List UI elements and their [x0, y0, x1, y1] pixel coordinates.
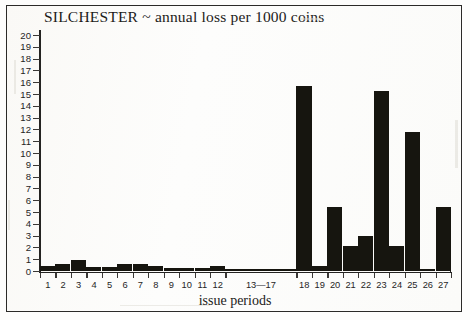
y-axis-tick	[33, 118, 40, 119]
x-axis-tick	[148, 273, 149, 278]
y-axis-tick	[33, 59, 40, 60]
bar	[405, 132, 420, 271]
bar	[164, 268, 179, 272]
x-axis-tick	[312, 273, 313, 278]
x-axis-tick	[55, 273, 56, 278]
bar	[296, 86, 311, 271]
y-axis-label: 4	[0, 219, 31, 229]
x-axis-tick	[210, 273, 211, 278]
x-axis-tick	[195, 273, 196, 278]
y-axis-label: 19	[0, 42, 31, 52]
bar	[148, 266, 163, 271]
x-axis-label: 27	[423, 281, 463, 290]
y-axis-label: 3	[0, 231, 31, 241]
y-axis-label: 1	[0, 255, 31, 265]
y-axis-tick	[33, 82, 40, 83]
x-axis-tick	[374, 273, 375, 278]
bar	[210, 266, 225, 272]
x-axis-tick	[225, 273, 226, 278]
y-axis-label: 12	[0, 125, 31, 135]
y-axis-tick	[33, 141, 40, 142]
bar	[40, 266, 55, 272]
y-axis-tick	[33, 177, 40, 178]
y-axis-label: 8	[0, 172, 31, 182]
y-axis-label: 9	[0, 160, 31, 170]
y-axis-tick	[33, 153, 40, 154]
y-axis-tick	[33, 129, 40, 130]
y-axis-label: 14	[0, 101, 31, 111]
chart-page: SILCHESTER ~ annual loss per 1000 coins …	[0, 0, 470, 320]
x-axis-tick	[327, 273, 328, 278]
y-axis-label: 11	[0, 137, 31, 147]
chart-title: SILCHESTER ~ annual loss per 1000 coins	[44, 8, 325, 26]
y-axis-tick	[33, 247, 40, 248]
x-axis-tick	[405, 273, 406, 278]
y-axis-label: 17	[0, 66, 31, 76]
bar	[179, 268, 194, 272]
y-axis-tick	[33, 94, 40, 95]
x-axis-tick	[133, 273, 134, 278]
y-axis-tick	[33, 35, 40, 36]
x-axis-caption: issue periods	[0, 293, 470, 309]
x-axis-tick	[40, 273, 41, 278]
y-axis-label: 20	[0, 31, 31, 41]
bar	[195, 268, 210, 272]
bar	[436, 207, 451, 272]
y-axis-label: 15	[0, 90, 31, 100]
bar	[55, 264, 70, 271]
x-axis-tick	[296, 273, 297, 278]
x-axis-tick	[389, 273, 390, 278]
y-axis-tick	[33, 47, 40, 48]
bar	[358, 236, 373, 271]
y-axis-tick	[33, 165, 40, 166]
y-axis-label: 10	[0, 149, 31, 159]
y-axis-tick	[33, 236, 40, 237]
bar	[327, 207, 342, 272]
x-axis-tick	[436, 273, 437, 278]
x-axis-tick	[86, 273, 87, 278]
y-axis-tick	[33, 188, 40, 189]
y-axis-label: 6	[0, 196, 31, 206]
y-axis-label: 18	[0, 54, 31, 64]
bar	[102, 267, 117, 271]
y-axis-label: 13	[0, 113, 31, 123]
y-axis-tick	[33, 271, 40, 272]
bar	[420, 269, 435, 271]
bar	[374, 91, 389, 272]
x-axis-tick	[343, 273, 344, 278]
x-axis-tick	[179, 273, 180, 278]
y-axis-tick	[33, 224, 40, 225]
bar	[133, 264, 148, 271]
bar-series	[40, 30, 452, 272]
x-axis-label: 13—17	[241, 281, 281, 290]
bar	[86, 267, 101, 272]
bar	[389, 246, 404, 272]
y-axis-label: 16	[0, 78, 31, 88]
bar	[312, 266, 327, 272]
y-axis-tick	[33, 70, 40, 71]
x-axis-tick	[102, 273, 103, 278]
bar	[225, 269, 296, 272]
x-axis-tick	[451, 273, 452, 278]
y-axis-tick	[33, 259, 40, 260]
x-axis-label: 12	[198, 281, 238, 290]
y-axis-tick	[33, 212, 40, 213]
x-axis-tick	[117, 273, 118, 278]
x-axis-tick	[420, 273, 421, 278]
x-axis-tick	[358, 273, 359, 278]
y-axis-label: 0	[0, 267, 31, 277]
y-axis-label: 5	[0, 208, 31, 218]
y-axis-label: 7	[0, 184, 31, 194]
bar	[343, 246, 358, 272]
x-axis-tick	[164, 273, 165, 278]
x-axis-tick	[71, 273, 72, 278]
y-axis-tick	[33, 200, 40, 201]
bar	[71, 260, 86, 272]
y-axis-label: 2	[0, 243, 31, 253]
y-axis-tick	[33, 106, 40, 107]
bar	[117, 264, 132, 271]
